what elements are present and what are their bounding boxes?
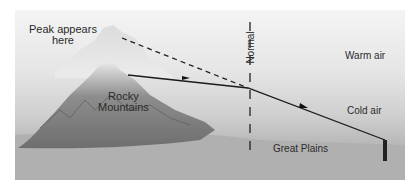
label-cold-air: Cold air — [347, 105, 381, 116]
arrow-icon — [182, 76, 190, 80]
arrow-icon — [299, 103, 308, 108]
label-great-plains: Great Plains — [273, 143, 328, 154]
observer-icon — [383, 140, 387, 161]
label-peak-appears: Peak appears here — [29, 24, 97, 46]
label-rocky-mountains: Rocky Mountains — [98, 91, 149, 113]
label-normal: Normal — [245, 31, 256, 63]
label-warm-air: Warm air — [345, 50, 385, 61]
